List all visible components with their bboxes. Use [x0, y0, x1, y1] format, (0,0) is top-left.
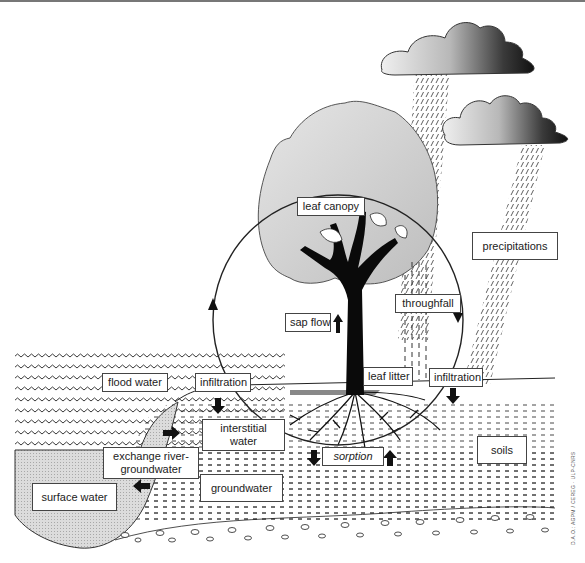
label-leaf-canopy: leaf canopy	[297, 197, 365, 216]
label-surface-water: surface water	[32, 483, 117, 511]
canopy-shape	[258, 101, 437, 284]
label-precipitations: precipitations	[472, 232, 558, 260]
label-interstitial-water: interstitial water	[202, 419, 285, 451]
label-flood-water: flood water	[102, 373, 168, 392]
credit-text: D.A.O.: AGPM / CEREG · ULP-CNRS	[570, 452, 576, 545]
label-throughfall: throughfall	[395, 294, 461, 313]
label-leaf-litter: leaf litter	[363, 367, 413, 386]
label-exchange-river-groundwater: exchange river-groundwater	[103, 447, 199, 479]
diagram-canvas	[0, 0, 585, 563]
label-sap-flow: sap flow	[285, 313, 331, 332]
label-sorption: sorption	[322, 447, 384, 466]
label-infiltration-right: infiltration	[429, 368, 483, 387]
label-infiltration-left: infiltration	[195, 373, 251, 392]
label-groundwater: groundwater	[200, 474, 283, 502]
sap-flow-arrow-up-icon	[333, 314, 343, 333]
cloud-upper	[381, 23, 534, 75]
cycle-arrow-up-icon	[208, 298, 218, 310]
cycle-arrow-down-icon	[453, 313, 463, 323]
water-cycle-diagram: leaf canopy precipitations throughfall s…	[0, 0, 585, 563]
cloud-lower	[443, 96, 568, 145]
label-soils: soils	[477, 436, 527, 464]
